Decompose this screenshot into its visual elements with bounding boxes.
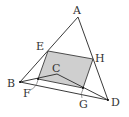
- point-B: [19, 81, 21, 83]
- label-C: C: [52, 62, 60, 75]
- leader-G: [81, 89, 83, 98]
- point-F: [37, 78, 39, 80]
- point-D: [107, 99, 109, 101]
- shaded-quadrilateral-EHGF: [38, 51, 93, 88]
- label-A: A: [72, 4, 82, 17]
- label-B: B: [7, 77, 15, 90]
- label-G: G: [79, 98, 88, 111]
- point-G: [82, 87, 84, 89]
- label-D: D: [111, 96, 120, 109]
- label-F: F: [23, 87, 31, 100]
- label-H: H: [95, 52, 105, 65]
- segment-BD: [20, 82, 108, 100]
- geometry-diagram: A E H C B F G D: [0, 0, 129, 117]
- label-E: E: [36, 40, 44, 53]
